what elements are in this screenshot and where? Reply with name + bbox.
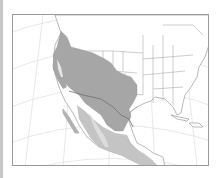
left-edge-rule [0, 0, 3, 178]
map-canvas [13, 15, 209, 166]
range-map [12, 14, 209, 166]
range-primary-colorado-spots [105, 65, 109, 69]
